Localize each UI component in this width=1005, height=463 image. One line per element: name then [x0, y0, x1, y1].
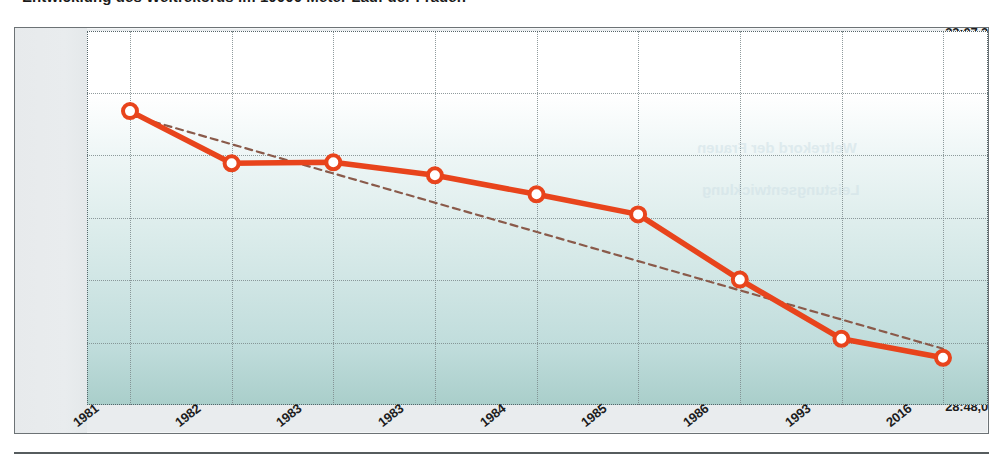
data-point-marker	[631, 207, 645, 221]
chart-page: Entwicklung des Weltrekords im 10000 Met…	[0, 0, 1005, 463]
data-point-marker	[428, 168, 442, 182]
data-point-marker	[326, 155, 340, 169]
y-axis-label-band	[15, 28, 87, 433]
x-axis-labels: 1981 1982 1983 1983 1984 1985 1986 1993 …	[14, 412, 989, 462]
chart-series-layer	[87, 31, 988, 405]
data-point-marker	[936, 351, 950, 365]
data-point-marker	[123, 104, 137, 118]
data-point-marker	[834, 332, 848, 346]
record-line	[130, 111, 943, 358]
data-point-marker	[733, 273, 747, 287]
data-point-markers	[123, 104, 950, 365]
page-title: Entwicklung des Weltrekords im 10000 Met…	[22, 0, 982, 6]
trend-line	[130, 115, 943, 349]
bottom-rule	[14, 452, 989, 454]
plot-area: Weltrekord der Frauen Leistungsentwicklu…	[87, 31, 988, 405]
data-point-marker	[225, 156, 239, 170]
data-point-marker	[530, 187, 544, 201]
